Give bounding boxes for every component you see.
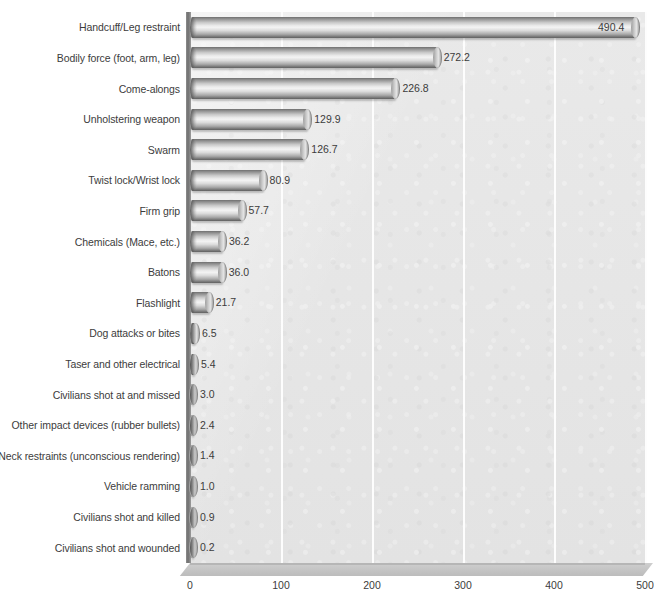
- bar-row: 57.7: [190, 200, 645, 221]
- category-label: Come-alongs: [0, 83, 180, 95]
- category-label: Twist lock/Wrist lock: [0, 174, 180, 186]
- bar-base-shadow: [190, 109, 197, 130]
- bar-end-cap: [238, 200, 247, 221]
- bar-value-label: 36.0: [229, 266, 249, 279]
- bar-end-cap: [631, 17, 640, 38]
- category-axis: Handcuff/Leg restraintBodily force (foot…: [0, 16, 186, 556]
- bar-value-label: 21.7: [216, 296, 236, 309]
- bar-end-cap: [303, 109, 312, 130]
- bar-base-shadow: [190, 507, 197, 528]
- bar-base-shadow: [190, 170, 197, 191]
- category-label: Bodily force (foot, arm, leg): [0, 52, 180, 64]
- bar-base-shadow: [190, 415, 197, 436]
- axis-floor-edge: [190, 563, 645, 565]
- bar-value-label: 126.7: [311, 143, 337, 156]
- bar-value-label: 1.4: [200, 449, 215, 462]
- category-label: Flashlight: [0, 297, 180, 309]
- x-tick-label: 300: [454, 578, 472, 592]
- bar-value-label: 6.5: [202, 327, 217, 340]
- category-label: Handcuff/Leg restraint: [0, 21, 180, 33]
- bar-row: 6.5: [190, 323, 645, 344]
- bar: [190, 78, 396, 99]
- x-tick-label: 0: [187, 578, 193, 592]
- bar-base-shadow: [190, 17, 197, 38]
- bar-value-label: 272.2: [444, 51, 470, 64]
- bar-row: 0.9: [190, 507, 645, 528]
- bar-row: 272.2: [190, 47, 645, 68]
- category-label: Taser and other electrical: [0, 358, 180, 370]
- bar-value-label: 0.2: [200, 541, 215, 554]
- gridline: [645, 12, 647, 563]
- bar-value-label: 0.9: [200, 511, 215, 524]
- bar-base-shadow: [190, 354, 197, 375]
- bar-base-shadow: [190, 384, 197, 405]
- bar-base-shadow: [190, 78, 197, 99]
- bar-value-label: 3.0: [200, 388, 215, 401]
- value-axis: 0100200300400500: [0, 578, 653, 598]
- bar-value-label: 1.0: [200, 480, 215, 493]
- plot-area: 490.4272.2226.8129.9126.780.957.736.236.…: [190, 12, 645, 563]
- bar-value-label: 226.8: [402, 82, 428, 95]
- bar-value-label: 5.4: [201, 358, 216, 371]
- bar-row: 1.0: [190, 476, 645, 497]
- bar-row: 5.4: [190, 354, 645, 375]
- bar-row: 21.7: [190, 292, 645, 313]
- bar-base-shadow: [190, 262, 197, 283]
- bar-value-label: 80.9: [270, 174, 290, 187]
- bar-value-label: 2.4: [200, 419, 215, 432]
- bar-row: 2.4: [190, 415, 645, 436]
- x-tick-label: 500: [636, 578, 654, 592]
- bar-end-cap: [218, 231, 227, 252]
- bar-row: 80.9: [190, 170, 645, 191]
- bar-end-cap: [391, 78, 400, 99]
- bar: [190, 200, 243, 221]
- bar-row: 129.9: [190, 109, 645, 130]
- bar-end-cap: [218, 262, 227, 283]
- bar-base-shadow: [190, 537, 197, 558]
- category-label: Civilians shot and wounded: [0, 542, 180, 554]
- bar: [190, 170, 264, 191]
- category-label: Neck restraints (unconscious rendering): [0, 450, 180, 462]
- category-label: Other impact devices (rubber bullets): [0, 419, 180, 431]
- category-label: Unholstering weapon: [0, 113, 180, 125]
- bar-base-shadow: [190, 231, 197, 252]
- category-label: Firm grip: [0, 205, 180, 217]
- bar: [190, 139, 305, 160]
- bar-row: 36.0: [190, 262, 645, 283]
- category-label: Swarm: [0, 144, 180, 156]
- category-label: Civilians shot and killed: [0, 511, 180, 523]
- category-label: Civilians shot at and missed: [0, 389, 180, 401]
- bar-row: 3.0: [190, 384, 645, 405]
- bar: [190, 47, 438, 68]
- bar-base-shadow: [190, 476, 197, 497]
- x-tick-label: 400: [545, 578, 563, 592]
- bar-end-cap: [300, 139, 309, 160]
- bar-value-label: 129.9: [314, 113, 340, 126]
- bar-base-shadow: [190, 323, 197, 344]
- bar-end-cap: [433, 47, 442, 68]
- bar: [190, 17, 636, 38]
- bar-row: 1.4: [190, 445, 645, 466]
- bar-row: 490.4: [190, 17, 645, 38]
- bar-row: 226.8: [190, 78, 645, 99]
- bar-end-cap: [259, 170, 268, 191]
- x-tick-label: 100: [272, 578, 290, 592]
- category-label: Chemicals (Mace, etc.): [0, 236, 180, 248]
- category-label: Dog attacks or bites: [0, 327, 180, 339]
- bar-value-label: 36.2: [229, 235, 249, 248]
- bar-row: 36.2: [190, 231, 645, 252]
- category-label: Vehicle ramming: [0, 480, 180, 492]
- category-label: Batons: [0, 266, 180, 278]
- bar-row: 126.7: [190, 139, 645, 160]
- bar-row: 0.2: [190, 537, 645, 558]
- bar-value-label: 57.7: [249, 204, 269, 217]
- bar-end-cap: [205, 292, 214, 313]
- x-tick-label: 200: [363, 578, 381, 592]
- bar: [190, 109, 308, 130]
- bar-value-label: 490.4: [598, 21, 624, 34]
